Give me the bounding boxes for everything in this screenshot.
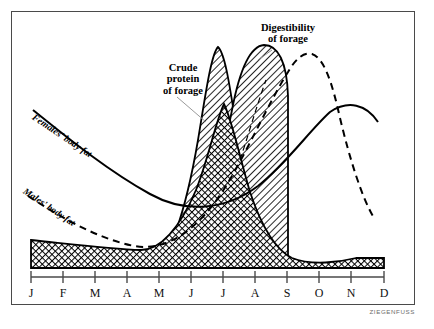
annotation-crude-protein-line1: Crude xyxy=(152,62,214,73)
annotation-crude-protein: Crude protein of forage xyxy=(152,62,214,96)
month-axis-labels: J F M A M J J A S O N D xyxy=(0,286,434,308)
month-label-may: M xyxy=(150,286,168,301)
annotation-digestibility-line2: of forage xyxy=(243,33,333,44)
chart-canvas xyxy=(0,0,434,329)
annotation-crude-protein-line3: of forage xyxy=(152,85,214,96)
month-label-dec: D xyxy=(375,286,393,301)
crude-protein-leader-line xyxy=(177,97,206,122)
month-label-mar: M xyxy=(86,286,104,301)
month-label-aug: A xyxy=(246,286,264,301)
month-label-nov: N xyxy=(342,286,360,301)
month-label-sep: S xyxy=(278,286,296,301)
month-label-jul: J xyxy=(214,286,232,301)
month-label-feb: F xyxy=(54,286,72,301)
annotation-digestibility-line1: Digestibility xyxy=(243,22,333,33)
month-label-apr: A xyxy=(118,286,136,301)
month-label-jun: J xyxy=(182,286,200,301)
credit-text: ZIEGENFUSS xyxy=(369,308,415,315)
annotation-crude-protein-line2: protein xyxy=(152,73,214,84)
month-label-jan: J xyxy=(22,286,40,301)
month-label-oct: O xyxy=(310,286,328,301)
month-axis xyxy=(31,271,384,283)
annotation-digestibility: Digestibility of forage xyxy=(243,22,333,45)
figure-container: Crude protein of forage Digestibility of… xyxy=(0,0,434,329)
